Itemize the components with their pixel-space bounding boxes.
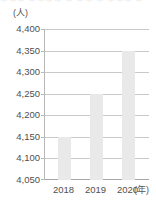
y-axis-tick-label: 4,050 [0, 175, 40, 185]
y-axis-tick-label: 4,350 [0, 46, 40, 56]
x-axis-tick-label-2018: 2018 [47, 184, 80, 196]
x-axis-tick-labels: 2018 2019 2020 (年) [44, 184, 156, 200]
y-axis-tick-labels: 4,400 4,350 4,300 4,250 4,200 4,150 4,10… [0, 24, 40, 180]
x-axis-unit-label: (年) [134, 184, 149, 196]
y-axis-tick-label: 4,100 [0, 153, 40, 163]
y-axis-tick-label: 4,150 [0, 132, 40, 142]
plot-area: 4,400 4,350 4,300 4,250 4,200 4,150 4,10… [0, 0, 156, 203]
bar-2018 [58, 137, 71, 180]
x-axis-tick-label-2019: 2019 [79, 184, 112, 196]
y-axis-tick-label: 4,300 [0, 67, 40, 77]
y-axis-tick-label: 4,200 [0, 110, 40, 120]
bar-series [45, 29, 149, 180]
chart-axes [44, 29, 148, 180]
bar-2019 [90, 94, 103, 180]
y-axis-tick-label: 4,400 [0, 24, 40, 34]
y-axis-tick-label: 4,250 [0, 89, 40, 99]
bar-chart-figure: ＊＊＊ ＊＊＊＊ ＊ ＊＊ ＊ ＊＊＊ ＊ (人) 4,400 4,350 4,… [0, 0, 156, 203]
bar-2020 [122, 51, 135, 180]
